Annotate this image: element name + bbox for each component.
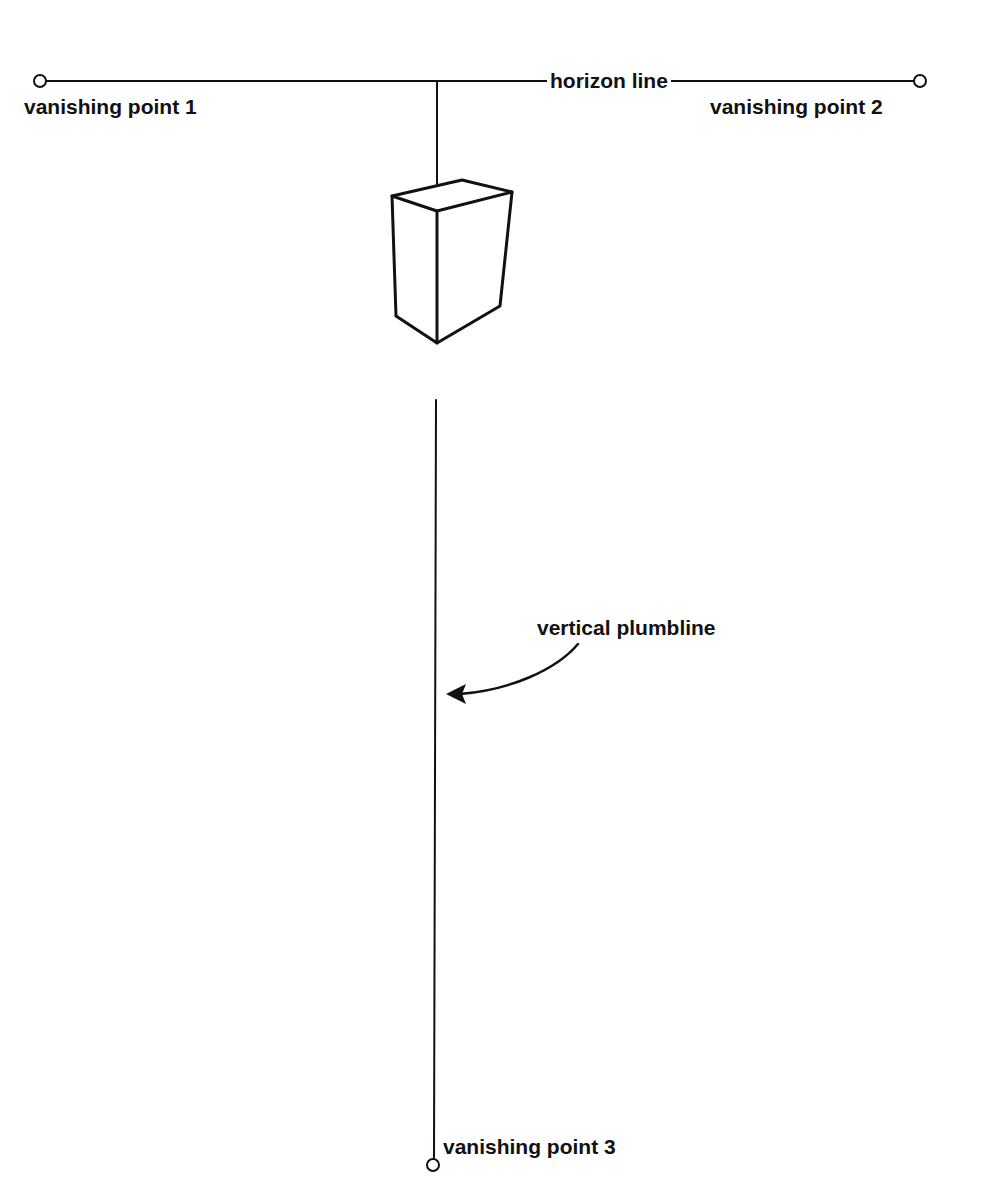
vanishing-point-1-label: vanishing point 1 (24, 96, 197, 117)
horizon-line-label: horizon line (547, 70, 671, 91)
vanishing-point-3-label: vanishing point 3 (443, 1136, 616, 1157)
perspective-box (392, 180, 512, 343)
plumbline-lower-segment (434, 400, 436, 1158)
vanishing-point-1-marker (34, 75, 46, 87)
vanishing-point-2-marker (914, 75, 926, 87)
vanishing-point-2-label: vanishing point 2 (710, 96, 883, 117)
vanishing-point-3-marker (427, 1159, 439, 1171)
vertical-plumbline-label: vertical plumbline (537, 617, 716, 638)
perspective-diagram (0, 0, 986, 1199)
plumbline-arrow (460, 644, 578, 694)
